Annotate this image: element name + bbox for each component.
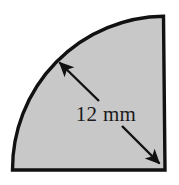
figure-container: 12 mm bbox=[0, 0, 179, 185]
quarter-circle-figure: 12 mm bbox=[0, 0, 179, 185]
radius-dimension-label: 12 mm bbox=[76, 102, 136, 126]
